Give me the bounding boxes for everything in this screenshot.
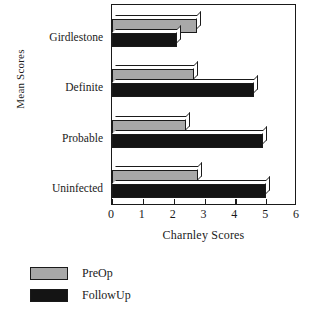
category-label-girdlestone: Girdlestone xyxy=(49,31,103,44)
category-axis-labels: GirdlestoneDefiniteProbableUninfected xyxy=(0,4,108,205)
x-axis-title: Charnley Scores xyxy=(111,228,296,243)
x-tick-5 xyxy=(266,199,267,204)
bar-front-face xyxy=(112,33,177,47)
category-label-definite: Definite xyxy=(65,81,103,94)
bar-front-face xyxy=(112,134,263,148)
x-tick-4 xyxy=(235,199,236,204)
bar-front-face xyxy=(112,83,254,97)
x-tick-label-0: 0 xyxy=(101,207,121,221)
legend-item-followup: FollowUp xyxy=(30,284,230,306)
x-tick-2 xyxy=(174,199,175,204)
bar-side-face xyxy=(266,176,270,194)
legend: PreOpFollowUp xyxy=(30,262,230,306)
bar-side-face xyxy=(263,126,267,144)
bar-front-face xyxy=(112,184,266,198)
legend-item-preop: PreOp xyxy=(30,262,230,284)
x-tick-3 xyxy=(205,199,206,204)
legend-swatch-followup xyxy=(30,289,68,302)
bar-side-face xyxy=(186,112,190,130)
x-tick-1 xyxy=(143,199,144,204)
x-tick-label-5: 5 xyxy=(255,207,275,221)
bar-side-face xyxy=(194,61,198,79)
plot-area xyxy=(111,4,296,205)
bar-side-face xyxy=(177,25,181,43)
bar-chart: Mean Scores GirdlestoneDefiniteProbableU… xyxy=(0,0,311,322)
legend-swatch-preop xyxy=(30,267,68,280)
legend-label-preop: PreOp xyxy=(82,266,113,281)
bar-side-face xyxy=(197,11,201,29)
x-axis-tick-labels: 0123456 xyxy=(111,207,296,223)
x-tick-label-2: 2 xyxy=(163,207,183,221)
x-tick-0 xyxy=(112,199,113,204)
category-label-uninfected: Uninfected xyxy=(52,182,103,195)
bar-side-face xyxy=(254,75,258,93)
x-tick-label-4: 4 xyxy=(224,207,244,221)
category-label-probable: Probable xyxy=(62,132,103,145)
x-tick-label-6: 6 xyxy=(286,207,306,221)
legend-label-followup: FollowUp xyxy=(82,288,131,303)
x-tick-label-3: 3 xyxy=(194,207,214,221)
bar-side-face xyxy=(198,162,202,180)
x-tick-label-1: 1 xyxy=(132,207,152,221)
